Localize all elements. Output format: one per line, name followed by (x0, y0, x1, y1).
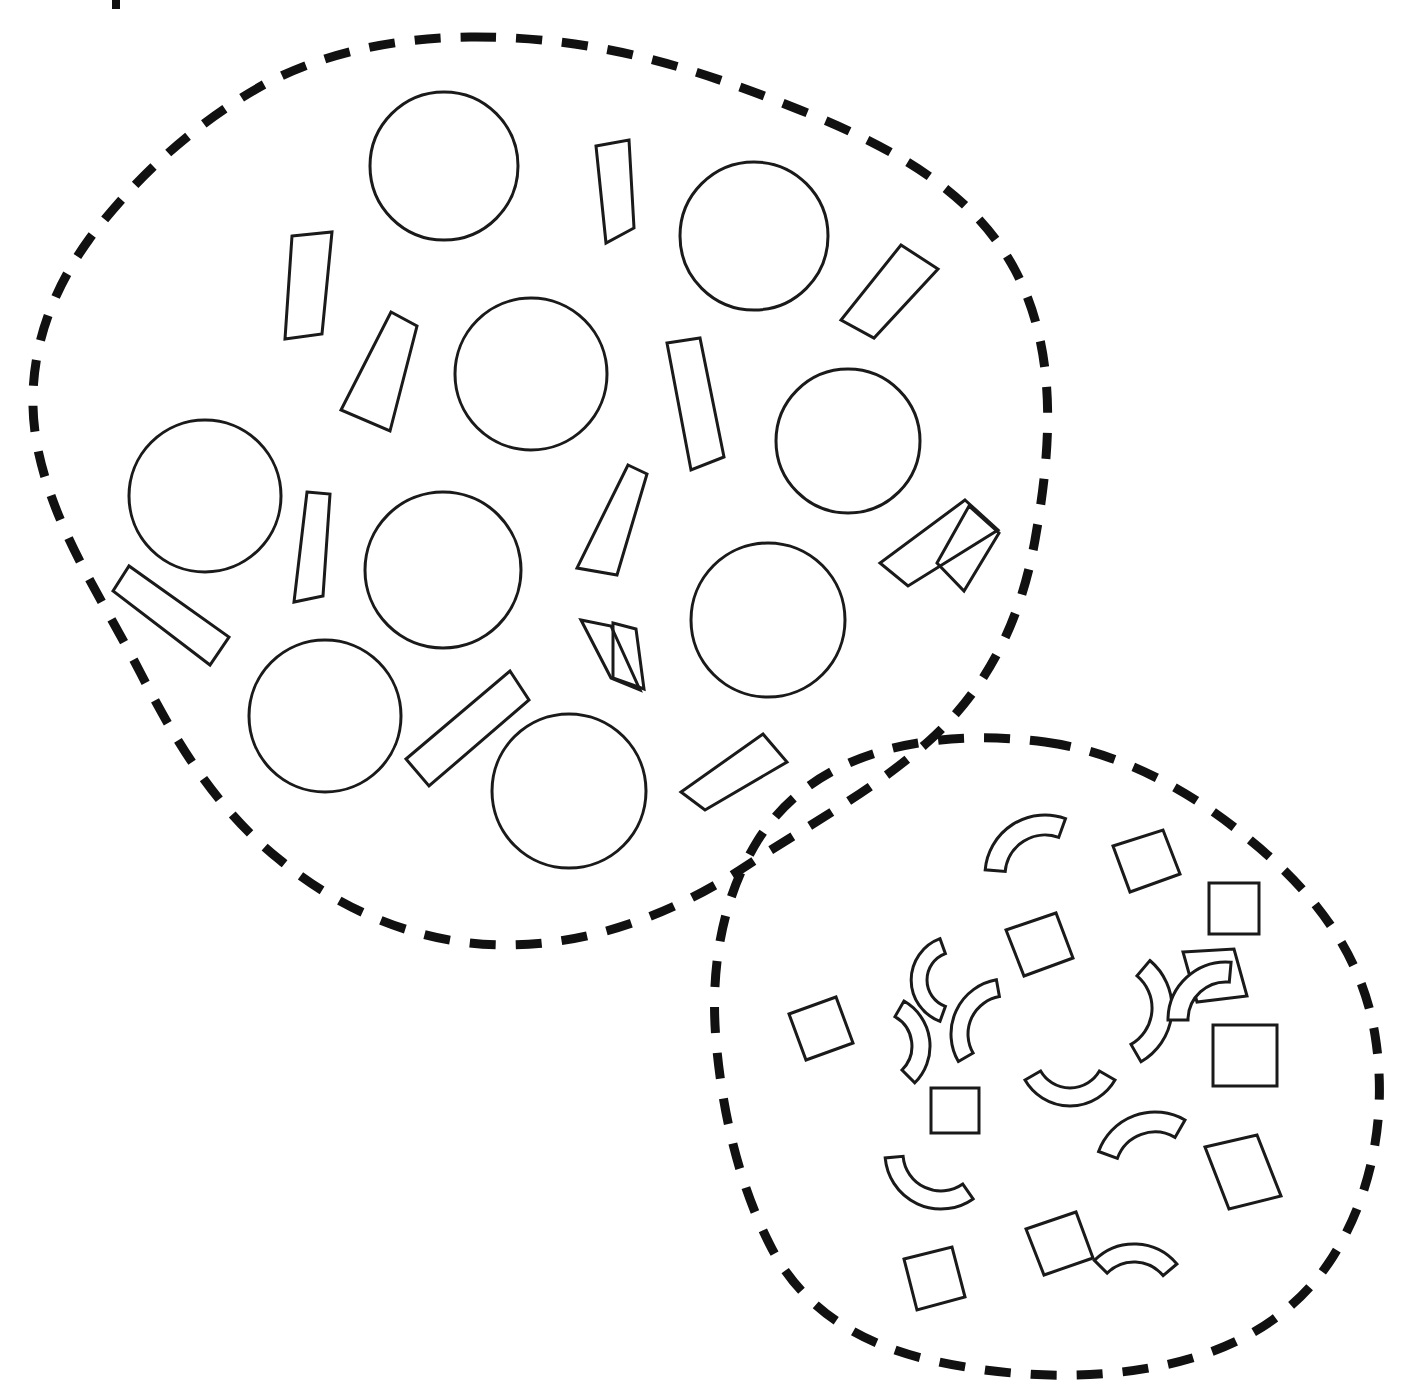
bar-shape (841, 245, 938, 338)
arc-shape (1168, 962, 1231, 1020)
square-shape (1205, 1135, 1281, 1209)
bar-shape (581, 620, 640, 690)
square-shape (1209, 883, 1259, 934)
square-shape (904, 1247, 965, 1310)
diagram-canvas-container (0, 0, 1402, 1394)
shape-grouping-diagram (0, 0, 1402, 1394)
bar-shape (285, 232, 332, 339)
circle-shape (492, 714, 646, 868)
square-shape (1006, 913, 1073, 976)
circle-shape (455, 298, 607, 450)
circle-shape (680, 162, 828, 310)
square-shape (1213, 1025, 1277, 1086)
arc-shape (1094, 1244, 1177, 1276)
bar-shape (294, 492, 330, 602)
lower-right-arcs (885, 815, 1231, 1276)
lower-right-squares (789, 830, 1281, 1310)
arc-shape (1099, 1112, 1185, 1158)
bar-shape (667, 338, 724, 470)
arc-shape (1131, 961, 1172, 1062)
circle-shape (365, 492, 521, 648)
bar-shape (577, 465, 647, 575)
square-shape (789, 997, 853, 1060)
circle-shape (691, 543, 845, 697)
bar-shape (880, 500, 998, 586)
bar-shape (596, 140, 634, 243)
bar-shape (406, 671, 529, 786)
square-shape (1026, 1212, 1093, 1275)
upper-left-bars (113, 140, 999, 810)
bar-shape (113, 566, 229, 665)
upper-left-circles (129, 92, 920, 868)
arc-shape (985, 815, 1065, 872)
square-shape (1113, 830, 1180, 892)
arc-shape (885, 1156, 973, 1209)
circle-shape (776, 369, 920, 513)
bar-shape (341, 312, 417, 431)
crop-mark-fragment (112, 0, 120, 9)
bar-shape (613, 623, 644, 689)
arc-shape (1025, 1071, 1115, 1106)
arc-shape (951, 980, 999, 1062)
upper-left-group-boundary (33, 37, 1048, 945)
square-shape (931, 1088, 979, 1133)
circle-shape (370, 92, 518, 240)
circle-shape (249, 640, 401, 792)
bar-shape (681, 734, 787, 810)
circle-shape (129, 420, 281, 572)
